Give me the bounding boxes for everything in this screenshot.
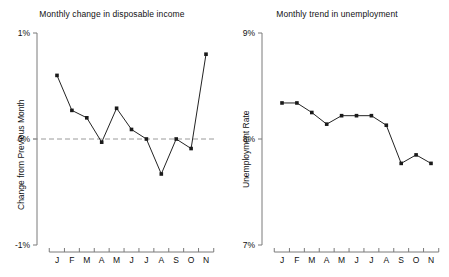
data-point [340, 114, 344, 118]
data-point [174, 137, 178, 141]
data-point [355, 114, 359, 118]
data-point [414, 153, 418, 157]
data-point [189, 147, 193, 151]
data-point [55, 74, 59, 78]
data-point [160, 172, 164, 176]
data-point [310, 111, 314, 115]
data-point [370, 114, 374, 118]
chart-page: Monthly change in disposable income Chan… [0, 0, 449, 277]
data-point [204, 52, 208, 56]
line-chart-right [225, 0, 449, 277]
panel-unemployment: Monthly trend in unemployment Unemployme… [225, 0, 449, 277]
data-point [100, 140, 104, 144]
data-point [130, 128, 134, 132]
data-point [429, 162, 433, 166]
line-chart-left [0, 0, 224, 277]
data-point [399, 162, 403, 166]
data-point [145, 137, 149, 141]
data-point [70, 109, 74, 113]
data-point [325, 122, 329, 126]
data-point [280, 101, 284, 105]
data-point [115, 106, 119, 110]
panel-disposable-income: Monthly change in disposable income Chan… [0, 0, 224, 277]
data-point [85, 116, 89, 120]
data-point [295, 101, 299, 105]
data-point [385, 123, 389, 127]
